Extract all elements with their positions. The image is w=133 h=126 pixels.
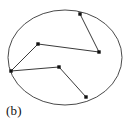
vertex-marker	[78, 12, 81, 15]
chain-segment	[11, 67, 59, 71]
chain-segment	[80, 14, 99, 52]
panel-label: (b)	[6, 103, 22, 118]
vertex-marker	[97, 50, 100, 53]
vertex-marker	[9, 69, 12, 72]
figure-panel: (b)	[0, 0, 133, 126]
chain-segment	[11, 44, 38, 71]
chain-segment	[38, 44, 99, 52]
vertex-marker	[84, 95, 87, 98]
vertex-marker	[36, 42, 39, 45]
chain-segment	[59, 67, 86, 97]
chain-group	[11, 14, 99, 97]
vertex-marker	[57, 65, 60, 68]
